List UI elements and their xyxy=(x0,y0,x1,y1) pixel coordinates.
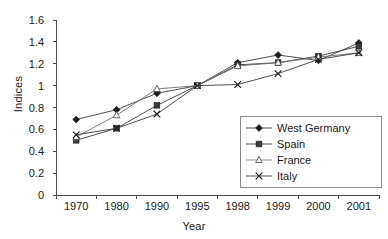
x-axis-tick-label: 1999 xyxy=(266,200,290,212)
legend-marker-open-triangle-icon xyxy=(244,152,274,168)
x-axis-tick-label: 2001 xyxy=(347,200,371,212)
series-west-germany xyxy=(73,40,362,123)
chart-legend: West GermanySpainFranceItaly xyxy=(240,116,382,188)
x-axis-tick-label: 1980 xyxy=(104,200,128,212)
x-axis-tick-label: 2000 xyxy=(306,200,330,212)
x-axis-tick-label: 1990 xyxy=(145,200,169,212)
x-axis-tick-label: 1995 xyxy=(185,200,209,212)
legend-label: West Germany xyxy=(274,122,350,134)
legend-label: Italy xyxy=(274,170,297,182)
legend-marker-filled-square-icon xyxy=(244,136,274,152)
legend-label: Spain xyxy=(274,138,305,150)
legend-label: France xyxy=(274,154,311,166)
legend-item-spain[interactable]: Spain xyxy=(244,136,377,152)
legend-marker-filled-diamond-icon xyxy=(244,120,274,136)
x-axis-tick-label: 1998 xyxy=(225,200,249,212)
x-axis-tick-label: 1970 xyxy=(64,200,88,212)
line-chart: Indices Year 00.20.40.60.811.21.41.6 197… xyxy=(0,0,388,239)
legend-marker-cross-x-icon xyxy=(244,168,274,184)
legend-item-italy[interactable]: Italy xyxy=(244,168,377,184)
legend-item-west-germany[interactable]: West Germany xyxy=(244,120,377,136)
legend-item-france[interactable]: France xyxy=(244,152,377,168)
